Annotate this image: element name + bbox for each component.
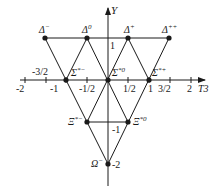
delta-plusplus-charge: ++: [168, 23, 177, 31]
label-delta-minus: Δ−: [39, 25, 50, 35]
label-sigma-star-zero: Σ*0: [112, 68, 125, 78]
label-delta-plusplus: Δ++: [162, 25, 177, 35]
t3-axis-label: T3: [198, 84, 209, 94]
tick-yneg2: -2: [112, 160, 120, 170]
decuplet-diagram: Y T3 -2 -3/2 -1 -1/2 1/2 1 3/2 2 1 -1 -2…: [0, 0, 223, 186]
particle-dots: [42, 35, 171, 166]
tick-3-2: 3/2: [158, 84, 171, 94]
label-sigma-star-minus: Σ*−: [71, 68, 85, 78]
delta-minus-charge: −: [45, 23, 50, 31]
label-omega-minus: Ω−: [91, 159, 103, 169]
label-delta-zero: Δ0: [82, 25, 91, 35]
label-sigma-star-plus: Σ*+: [152, 68, 166, 78]
omega-minus-charge: −: [98, 157, 103, 165]
sigma-star-plus-charge: *+: [158, 66, 166, 74]
tick-2: 2: [187, 84, 192, 94]
label-delta-plus: Δ+: [124, 25, 135, 35]
delta-plus-charge: +: [130, 23, 135, 31]
decuplet-triangle: [45, 38, 169, 164]
t3-label-text: T3: [198, 83, 209, 94]
label-xi-star-minus: Ξ*−: [68, 117, 83, 127]
tick-neg1: -1: [50, 84, 58, 94]
xi-star-zero-charge: *0: [139, 115, 146, 123]
tick-neg1-2: -1/2: [79, 84, 95, 94]
sigma-star-minus-charge: *−: [77, 66, 85, 74]
label-xi-star-zero: Ξ*0: [133, 117, 146, 127]
tick-neg2: -2: [16, 84, 24, 94]
tick-1: 1: [148, 84, 153, 94]
tick-neg3-2: -3/2: [32, 67, 48, 77]
y-axis-label: Y: [111, 5, 117, 16]
delta-zero-charge: 0: [88, 23, 92, 31]
sigma-star-zero-charge: *0: [118, 66, 125, 74]
xi-star-minus-charge: *−: [74, 115, 82, 123]
tick-y1: 1: [110, 41, 115, 51]
tick-yneg1: -1: [112, 125, 120, 135]
tick-1-2: 1/2: [123, 84, 136, 94]
